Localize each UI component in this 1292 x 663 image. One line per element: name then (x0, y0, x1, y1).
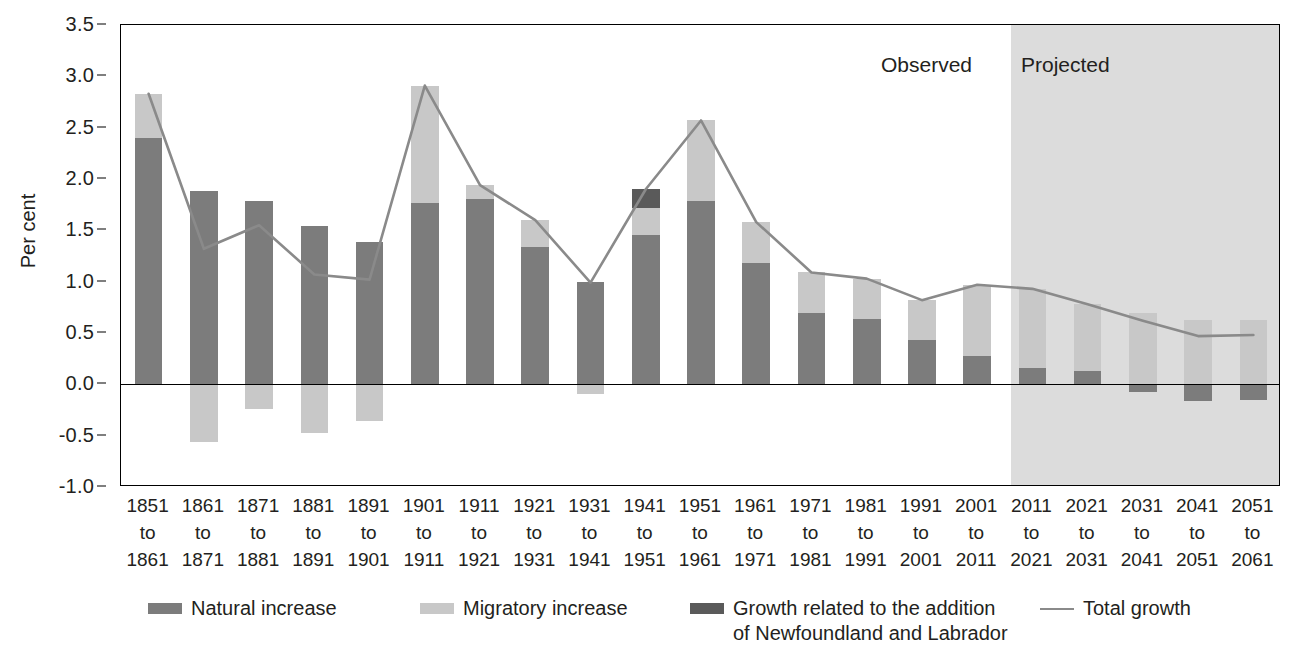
total-growth-polyline (149, 86, 1254, 337)
x-axis-category-line: 1921 (451, 546, 506, 573)
x-axis-category-label: 1911to1921 (451, 492, 506, 573)
legend-color-swatch (420, 603, 454, 614)
legend-line-swatch (1040, 608, 1074, 610)
x-axis-category-label: 2041to2051 (1170, 492, 1225, 573)
x-axis-category-line: 1921 (507, 492, 562, 519)
x-axis-category-line: to (617, 519, 672, 546)
panel-label-projected: Projected (1021, 53, 1110, 77)
y-tick-mark (97, 24, 106, 25)
x-axis-category-line: 1901 (396, 492, 451, 519)
y-tick-label: -0.5 (59, 423, 94, 446)
y-tick-label: 1.5 (66, 218, 94, 241)
x-axis-category-label: 1921to1931 (507, 492, 562, 573)
x-axis-category-line: 1951 (672, 492, 727, 519)
x-axis-category-line: to (838, 519, 893, 546)
x-axis-category-line: 2031 (1114, 492, 1169, 519)
x-axis-category-line: 1891 (341, 492, 396, 519)
legend-color-swatch (690, 603, 724, 614)
x-axis-category-line: to (341, 519, 396, 546)
x-axis-category-line: to (672, 519, 727, 546)
x-axis-category-line: 2021 (1004, 546, 1059, 573)
x-axis-category-line: to (175, 519, 230, 546)
x-axis-category-line: to (1114, 519, 1169, 546)
x-axis-category-line: 2011 (1004, 492, 1059, 519)
legend-item[interactable]: Total growth (1040, 596, 1191, 621)
x-axis-category-label: 1951to1961 (672, 492, 727, 573)
x-axis-category-line: to (230, 519, 285, 546)
x-axis-category-line: 1861 (175, 492, 230, 519)
x-axis-category-line: to (120, 519, 175, 546)
x-axis-category-line: to (562, 519, 617, 546)
x-axis-category-label: 1871to1881 (230, 492, 285, 573)
x-axis-category-line: 2001 (949, 492, 1004, 519)
x-axis-category-line: to (1004, 519, 1059, 546)
y-tick-mark (97, 280, 106, 281)
total-growth-line (121, 25, 1281, 487)
panel-label-observed: Observed (881, 53, 972, 77)
legend-label: Natural increase (191, 596, 337, 621)
x-axis-category-line: to (1170, 519, 1225, 546)
y-axis-title-container: Per cent (22, 0, 52, 663)
y-tick-label: 3.0 (66, 64, 94, 87)
x-axis-category-line: to (1225, 519, 1280, 546)
x-axis-category-label: 1861to1871 (175, 492, 230, 573)
x-axis-category-line: to (1059, 519, 1114, 546)
legend-color-swatch (148, 603, 182, 614)
x-axis-category-line: 2041 (1170, 492, 1225, 519)
x-axis-category-line: to (893, 519, 948, 546)
x-axis-category-line: 1951 (617, 546, 672, 573)
plot-area: Observed Projected (120, 24, 1280, 486)
x-axis-category-line: 2051 (1170, 546, 1225, 573)
y-tick-mark (97, 178, 106, 179)
x-axis-category-line: 2051 (1225, 492, 1280, 519)
y-tick-mark (97, 332, 106, 333)
x-axis-category-label: 2001to2011 (949, 492, 1004, 573)
x-axis-category-line: 2001 (893, 546, 948, 573)
x-axis-category-label: 1901to1911 (396, 492, 451, 573)
y-tick-label: 2.5 (66, 115, 94, 138)
x-axis-category-label: 1891to1901 (341, 492, 396, 573)
x-axis-category-line: 1961 (672, 546, 727, 573)
x-axis-category-line: 1871 (175, 546, 230, 573)
y-tick-label: 1.0 (66, 269, 94, 292)
legend-label: Growth related to the addition of Newfou… (733, 596, 1008, 646)
x-axis-category-label: 2051to2061 (1225, 492, 1280, 573)
x-axis-category-label: 2011to2021 (1004, 492, 1059, 573)
y-tick-mark (97, 126, 106, 127)
x-axis-category-line: 1991 (838, 546, 893, 573)
x-axis-category-line: to (783, 519, 838, 546)
y-tick-mark (97, 434, 106, 435)
y-tick-mark (97, 486, 106, 487)
x-axis-category-line: to (728, 519, 783, 546)
x-axis-category-line: 2031 (1059, 546, 1114, 573)
y-tick-label: 3.5 (66, 13, 94, 36)
x-axis-category-label: 1991to2001 (893, 492, 948, 573)
x-axis-category-line: 1941 (562, 546, 617, 573)
x-axis-category-line: 2011 (949, 546, 1004, 573)
x-axis-category-line: 1931 (562, 492, 617, 519)
x-axis-category-label: 1941to1951 (617, 492, 672, 573)
legend-item[interactable]: Natural increase (148, 596, 337, 621)
x-axis-category-line: 2061 (1225, 546, 1280, 573)
y-tick-mark (97, 383, 106, 384)
legend-item[interactable]: Migratory increase (420, 596, 628, 621)
x-axis-category-line: 1981 (783, 546, 838, 573)
x-axis-category-line: 1961 (728, 492, 783, 519)
legend-item[interactable]: Growth related to the addition of Newfou… (690, 596, 1008, 646)
x-axis-category-line: 1901 (341, 546, 396, 573)
x-axis-category-label: 1971to1981 (783, 492, 838, 573)
y-axis: 3.53.02.52.01.51.00.50.0-0.5-1.0 (0, 0, 120, 663)
x-axis-category-line: 1971 (728, 546, 783, 573)
x-axis-category-label: 1931to1941 (562, 492, 617, 573)
x-axis-category-label: 1961to1971 (728, 492, 783, 573)
x-axis-category-line: 1861 (120, 546, 175, 573)
x-axis-labels: 1851to18611861to18711871to18811881to1891… (120, 492, 1280, 588)
x-axis-category-line: to (396, 519, 451, 546)
x-axis-category-line: 1891 (286, 546, 341, 573)
x-axis-category-label: 1851to1861 (120, 492, 175, 573)
x-axis-category-line: 1881 (230, 546, 285, 573)
x-axis-category-line: 2041 (1114, 546, 1169, 573)
y-tick-mark (97, 229, 106, 230)
x-axis-category-line: 1981 (838, 492, 893, 519)
x-axis-category-line: 1871 (230, 492, 285, 519)
